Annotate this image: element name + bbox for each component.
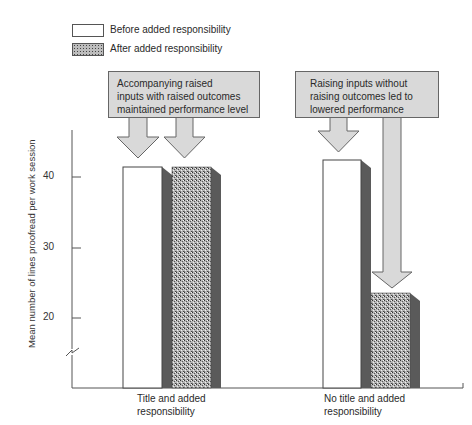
- bar-notitle-after: [371, 293, 420, 388]
- y-axis-title: Mean number of lines proofread per work …: [26, 139, 37, 348]
- callout-line: inputs with raised outcomes: [117, 90, 251, 103]
- bar-notitle-before: [323, 160, 371, 388]
- y-tick-30: 30: [34, 241, 54, 252]
- arrow-left-1: [117, 116, 159, 158]
- callout-maintained-performance: Accompanying raised inputs with raised o…: [108, 71, 260, 118]
- bar-title-after: [172, 167, 221, 388]
- category-label-no-title: No title and added responsibility: [324, 392, 405, 418]
- arrow-left-2: [164, 116, 205, 158]
- callout-line: lowered performance: [310, 103, 430, 116]
- category-line: Title and added: [137, 392, 206, 405]
- callout-line: Accompanying raised: [117, 77, 251, 90]
- category-label-title: Title and added responsibility: [137, 392, 206, 418]
- y-tick-20: 20: [34, 311, 54, 322]
- callout-line: raising outcomes led to: [310, 90, 430, 103]
- callout-line: Raising inputs without: [310, 77, 430, 90]
- category-line: No title and added: [324, 392, 405, 405]
- arrow-right-1: [318, 116, 359, 152]
- callout-lowered-performance: Raising inputs without raising outcomes …: [295, 71, 439, 118]
- category-line: responsibility: [137, 405, 206, 418]
- bar-title-before: [123, 167, 172, 388]
- category-line: responsibility: [324, 405, 405, 418]
- chart-canvas: [0, 0, 472, 425]
- callout-line: maintained performance level: [117, 103, 251, 116]
- y-axis: [66, 130, 81, 388]
- y-tick-40: 40: [34, 170, 54, 181]
- arrow-right-2-long: [372, 116, 412, 288]
